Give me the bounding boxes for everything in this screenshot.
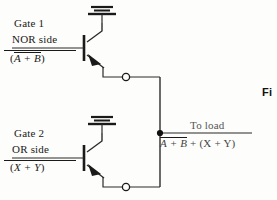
output-expr-overlined: A + B xyxy=(160,137,187,150)
gate2-expr-close: ) xyxy=(41,161,45,173)
gate2-ground-icon xyxy=(88,117,116,133)
gate1-expr-overlined: A + B xyxy=(14,52,41,65)
gate1-title: Gate 1 xyxy=(14,17,44,29)
gate2-title: Gate 2 xyxy=(14,127,44,139)
figure-caption: Fi xyxy=(262,86,272,98)
gate1-expr-close: ) xyxy=(41,52,45,64)
gate1-side-label: NOR side xyxy=(12,33,57,45)
gate2-expression: (X + Y) xyxy=(10,161,45,173)
gate1-divider-rule xyxy=(4,50,76,51)
output-expression: A + B + (X + Y) xyxy=(160,137,235,150)
gate1-ground-icon xyxy=(88,7,116,23)
gate2-output-terminal-node xyxy=(122,183,129,190)
gate1-expression: (A + B) xyxy=(10,52,45,65)
gate2-expr-body: X + Y xyxy=(14,161,41,173)
to-load-caption: To load xyxy=(190,119,225,131)
gate2-side-label: OR side xyxy=(12,143,49,155)
schematic-canvas: Gate 1 NOR side (A + B) Gate 2 OR side (… xyxy=(0,0,277,200)
output-expr-tail: + (X + Y) xyxy=(187,137,235,149)
wired-or-bus xyxy=(157,77,252,187)
wired-or-junction-dot xyxy=(157,130,163,136)
gate1-output-terminal-node xyxy=(122,73,129,80)
